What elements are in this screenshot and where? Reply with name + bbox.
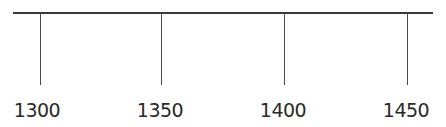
tick-mark-1450 (407, 13, 408, 85)
tick-label-1400: 1400 (243, 99, 323, 121)
tick-label-1450: 1450 (366, 99, 446, 121)
tick-mark-1400 (284, 13, 285, 85)
tick-label-1300: 1300 (0, 99, 77, 121)
timeline: 1300 1350 1400 1450 (0, 0, 446, 127)
tick-mark-1350 (161, 13, 162, 85)
tick-label-1350: 1350 (120, 99, 200, 121)
timeline-axis-line (13, 12, 433, 14)
tick-mark-1300 (40, 13, 41, 85)
